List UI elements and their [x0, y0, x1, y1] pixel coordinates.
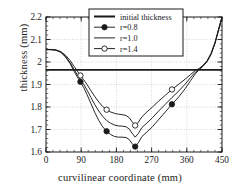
svg-text:2.1: 2.1	[30, 35, 42, 45]
svg-text:180: 180	[109, 155, 123, 165]
y-axis-label: thickness (mm)	[18, 3, 29, 113]
svg-text:0: 0	[44, 155, 49, 165]
svg-text:1.9: 1.9	[30, 80, 42, 90]
legend-label: r=1.4	[120, 45, 138, 54]
svg-text:2: 2	[37, 57, 42, 67]
svg-text:360: 360	[180, 155, 194, 165]
svg-text:1.8: 1.8	[30, 102, 42, 112]
svg-text:270: 270	[145, 155, 159, 165]
legend-label: r=0.8	[120, 23, 138, 32]
chart-canvas: 1.61.71.81.922.12.2090180270360450 initi…	[0, 0, 240, 190]
figure: 1.61.71.81.922.12.2090180270360450 initi…	[0, 0, 240, 190]
svg-text:2.2: 2.2	[30, 12, 42, 22]
legend-label: r=1.0	[120, 34, 138, 43]
svg-text:1.6: 1.6	[30, 147, 42, 157]
svg-text:450: 450	[215, 155, 229, 165]
legend-label: initial thickness	[120, 13, 172, 22]
x-axis-label: curvilinear coordinate (mm)	[0, 172, 240, 183]
svg-text:90: 90	[77, 155, 87, 165]
legend: initial thicknessr=0.8r=1.0r=1.4	[89, 9, 183, 56]
svg-text:1.7: 1.7	[30, 125, 42, 135]
